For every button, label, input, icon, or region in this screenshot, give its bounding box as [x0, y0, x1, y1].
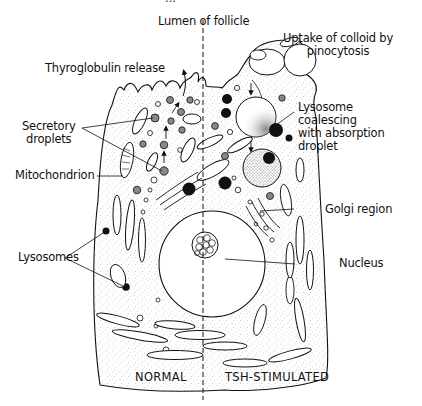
label-mitochondrion: Mitochondrion	[15, 169, 95, 182]
label-secretory-line2: droplets	[22, 133, 76, 146]
label-lysosome-coalescing: Lysosome coalescing with absorption drop…	[298, 101, 385, 153]
label-nucleus: Nucleus	[339, 257, 383, 270]
cropped-title: ...	[165, 0, 176, 5]
label-thyroglobulin-release: Thyroglobulin release	[45, 62, 165, 75]
label-lysosomes: Lysosomes	[18, 251, 79, 264]
label-tsh-stimulated: TSH-STIMULATED	[225, 371, 329, 384]
label-secretory-droplets: Secretory droplets	[22, 120, 76, 146]
label-normal: NORMAL	[135, 371, 187, 384]
label-lysosome-line4: droplet	[298, 140, 385, 153]
label-uptake-line2: pinocytosis	[283, 45, 393, 58]
label-lumen-of-follicle: Lumen of follicle	[158, 15, 249, 28]
label-golgi-region: Golgi region	[325, 203, 392, 216]
nucleus	[159, 211, 265, 317]
label-uptake-of-colloid: Uptake of colloid by pinocytosis	[283, 32, 393, 58]
